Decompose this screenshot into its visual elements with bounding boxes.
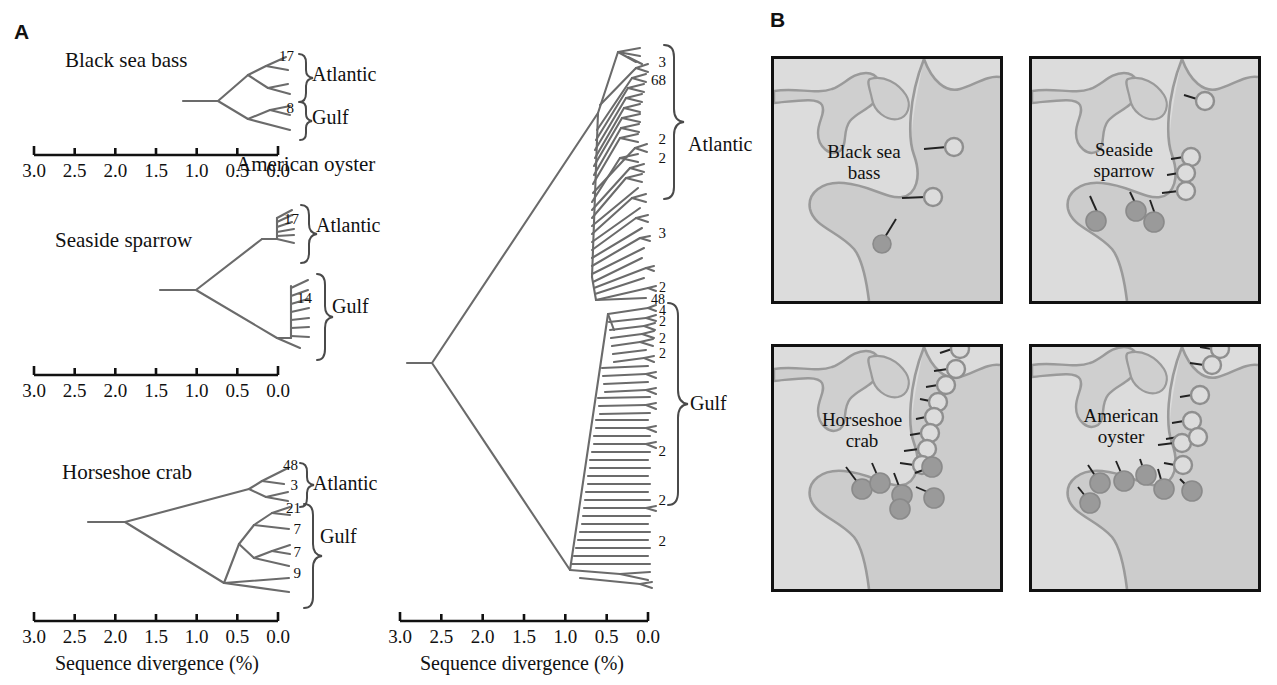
site-marker-gulf [1136, 465, 1156, 485]
axis4-tick-1: 2.5 [421, 626, 461, 648]
site-marker-atlantic [1203, 356, 1221, 374]
axis3-tick-4: 1.0 [177, 626, 217, 648]
site-marker-atlantic [1196, 92, 1214, 110]
clade-label-crab-gulf: Gulf [320, 525, 357, 548]
site-marker-atlantic [945, 138, 963, 156]
map-title-american-oyster: American oyster [1058, 405, 1184, 448]
site-marker-gulf [1080, 493, 1100, 513]
count-label-crab-atlantic-1: 48 [272, 457, 298, 474]
axis-caption-left: Sequence divergence (%) [55, 652, 259, 675]
map-american-oyster[interactable]: American oyster [1029, 344, 1261, 592]
axis1-tick-3: 1.5 [136, 160, 176, 182]
site-marker-gulf [1114, 471, 1134, 491]
site-marker-gulf [1126, 201, 1146, 221]
axis1-tick-1: 2.5 [55, 160, 95, 182]
taxon-name-horseshoe-crab: Horseshoe crab [62, 460, 192, 485]
axis1-tick-5: 0.5 [217, 160, 257, 182]
count-label-oyster-atlantic-1: 3 [640, 54, 666, 71]
axis3-tick-6: 0.0 [258, 626, 298, 648]
axis3-tick-3: 1.5 [136, 626, 176, 648]
axis4-tick-2: 2.0 [463, 626, 503, 648]
site-marker-gulf [890, 499, 910, 519]
count-label-crab-atlantic-2: 3 [272, 477, 298, 494]
site-marker-atlantic [924, 188, 942, 206]
map-black-sea-bass[interactable]: Black sea bass [771, 56, 1003, 304]
site-marker-atlantic [937, 376, 955, 394]
axis3-tick-5: 0.5 [217, 626, 257, 648]
axis1-tick-6: 0.0 [258, 160, 298, 182]
count-label-oyster-atlantic-2: 68 [638, 72, 666, 89]
axis1-tick-2: 2.0 [95, 160, 135, 182]
map-seaside-sparrow[interactable]: Seaside sparrow [1029, 56, 1261, 304]
site-marker-atlantic [1174, 456, 1192, 474]
site-marker-atlantic [947, 360, 965, 378]
site-marker-gulf [852, 479, 872, 499]
site-marker-gulf [1086, 211, 1106, 231]
site-marker-gulf [924, 488, 944, 508]
count-label-sparrow-gulf-1: 14 [288, 290, 312, 307]
count-label-oyster-atlantic-3: 2 [640, 131, 666, 148]
site-marker-gulf [922, 457, 942, 477]
axis4-tick-4: 1.0 [545, 626, 585, 648]
map-title-black-sea-bass: Black sea bass [804, 141, 924, 184]
map-horseshoe-crab[interactable]: Horseshoe crab [771, 344, 1003, 592]
axis4-tick-0: 3.0 [380, 626, 420, 648]
site-marker-atlantic [1189, 428, 1207, 446]
clade-label-sparrow-atlantic: Atlantic [316, 214, 380, 237]
taxon-name-seaside-sparrow: Seaside sparrow [55, 228, 192, 253]
count-label-crab-gulf-3: 7 [275, 544, 301, 561]
clade-label-oyster-gulf: Gulf [690, 392, 727, 415]
axis2-tick-2: 2.0 [95, 380, 135, 402]
panel-letter-b: B [770, 8, 785, 32]
site-marker-gulf [870, 473, 890, 493]
axis-caption-right: Sequence divergence (%) [420, 652, 624, 675]
site-marker-gulf [1154, 479, 1174, 499]
site-marker-gulf [1144, 212, 1164, 232]
site-marker-gulf [1182, 481, 1202, 501]
axis2-tick-3: 1.5 [136, 380, 176, 402]
site-marker-gulf [1090, 473, 1110, 493]
clade-label-oyster-atlantic: Atlantic [688, 133, 752, 156]
axis2-tick-6: 0.0 [258, 380, 298, 402]
tree-american-oyster [407, 48, 656, 588]
axis4-tick-3: 1.5 [504, 626, 544, 648]
count-label-bass-gulf-1: 8 [270, 100, 294, 117]
map-graphic-horseshoe-crab [774, 347, 1000, 589]
axis2-tick-1: 2.5 [55, 380, 95, 402]
clade-braces [299, 45, 688, 608]
axis4-tick-5: 0.5 [587, 626, 627, 648]
taxon-name-black-sea-bass: Black sea bass [65, 48, 187, 73]
tree-horseshoe-crab [88, 468, 290, 592]
count-label-crab-gulf-2: 7 [275, 521, 301, 538]
axis4-tick-6: 0.0 [628, 626, 668, 648]
clade-label-crab-atlantic: Atlantic [313, 472, 377, 495]
axis2-tick-4: 1.0 [177, 380, 217, 402]
site-marker-gulf [873, 235, 891, 253]
site-marker-atlantic [1177, 182, 1195, 200]
count-label-oyster-atlantic-4: 2 [640, 150, 666, 167]
count-label-oyster-atlantic-5: 3 [640, 225, 666, 242]
clade-label-sparrow-gulf: Gulf [332, 295, 369, 318]
axis3-tick-0: 3.0 [14, 626, 54, 648]
clade-label-bass-atlantic: Atlantic [312, 63, 376, 86]
count-label-crab-gulf-1: 21 [275, 500, 301, 517]
map-title-seaside-sparrow: Seaside sparrow [1064, 139, 1184, 182]
tree-black-sea-bass [183, 57, 290, 130]
figure-root: A B [0, 0, 1277, 685]
count-label-oyster-gulf-8: 2 [640, 492, 666, 509]
count-label-sparrow-atlantic-1: 17 [275, 211, 299, 228]
count-label-oyster-gulf-9: 2 [640, 533, 666, 550]
axis2-tick-5: 0.5 [217, 380, 257, 402]
count-label-oyster-gulf-6: 2 [640, 346, 666, 362]
count-label-bass-atlantic-1: 17 [270, 48, 294, 65]
count-label-oyster-gulf-4: 2 [640, 314, 666, 330]
axis3-tick-1: 2.5 [55, 626, 95, 648]
clade-label-bass-gulf: Gulf [312, 106, 349, 129]
count-label-oyster-gulf-5: 2 [640, 331, 666, 347]
map-title-horseshoe-crab: Horseshoe crab [800, 409, 924, 452]
axis2-tick-0: 3.0 [14, 380, 54, 402]
count-label-crab-gulf-4: 9 [275, 565, 301, 582]
axis1-tick-4: 1.0 [177, 160, 217, 182]
site-marker-atlantic [951, 347, 969, 358]
axis1-tick-0: 3.0 [14, 160, 54, 182]
